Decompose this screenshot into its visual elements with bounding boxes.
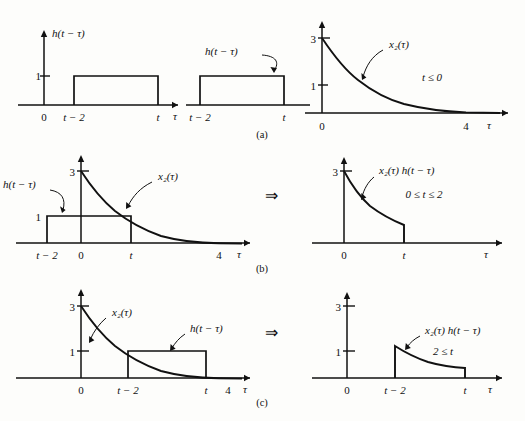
pulse-leader-line bbox=[172, 334, 185, 348]
pulse-leader-arrowhead bbox=[170, 344, 176, 351]
truncated-exponential bbox=[344, 171, 404, 243]
x-axis-arrowhead bbox=[496, 375, 502, 381]
x-tick-label-t: t bbox=[129, 249, 133, 261]
curve-leader-line bbox=[362, 177, 374, 197]
row-caption-c: (c) bbox=[256, 397, 268, 409]
x-tick-label-4: 4 bbox=[216, 249, 222, 261]
y-axis-label: h(t − τ) bbox=[52, 27, 85, 40]
x-axis-label-tau: τ bbox=[237, 248, 242, 260]
y-tick-label-3: 3 bbox=[311, 33, 317, 45]
rect-pulse bbox=[47, 216, 131, 243]
x-axis-label-tau: τ bbox=[484, 248, 489, 260]
figure-svg: h(t − τ) 1 0 t − 2 t τ h(t − τ) t − 2 t bbox=[0, 0, 525, 421]
x-axis-arrowhead bbox=[244, 375, 250, 381]
condition-annotation: t ≤ 0 bbox=[422, 71, 443, 83]
x-tick-label-0: 0 bbox=[78, 384, 84, 396]
x-axis-label-tau: τ bbox=[173, 110, 178, 122]
y-axis-arrowhead bbox=[319, 21, 325, 28]
x-axis-label-tau: τ bbox=[488, 383, 493, 395]
pulse-leader-arrowhead bbox=[60, 206, 66, 213]
implies-symbol-b: ⇒ bbox=[265, 187, 278, 204]
x-tick-label-0: 0 bbox=[344, 384, 350, 396]
y-axis-arrowhead bbox=[78, 155, 84, 162]
y-tick-label-3: 3 bbox=[333, 166, 339, 178]
x-tick-label-4: 4 bbox=[463, 120, 469, 132]
panel-a-left: h(t − τ) 1 0 t − 2 t τ bbox=[18, 27, 178, 123]
leader-line bbox=[363, 50, 383, 77]
rect-pulse bbox=[74, 76, 158, 105]
rect-pulse bbox=[128, 351, 206, 378]
x-tick-label-t: t bbox=[463, 384, 467, 396]
x-tick-label-tminus2: t − 2 bbox=[63, 111, 85, 123]
rect-pulse bbox=[200, 76, 284, 105]
implies-symbol-c: ⇒ bbox=[265, 324, 278, 341]
row-a: h(t − τ) 1 0 t − 2 t τ h(t − τ) t − 2 t bbox=[18, 21, 508, 141]
panel-c-right: x₂(τ) h(t − τ) 3 1 0 t − 2 t τ 2 ≤ t bbox=[312, 292, 502, 396]
x-tick-label-t: t bbox=[282, 111, 286, 123]
curve-leader-line bbox=[128, 182, 152, 206]
y-tick-label-1: 1 bbox=[311, 80, 317, 92]
curve-label: x₂(τ) bbox=[111, 306, 132, 319]
x-tick-label-0: 0 bbox=[78, 249, 84, 261]
curve-label: x₂(τ) bbox=[157, 170, 178, 183]
pulse-label: h(t − τ) bbox=[205, 45, 238, 58]
panel-c-left: x₂(τ) h(t − τ) 3 1 0 t − 2 t 4 τ bbox=[16, 289, 250, 396]
curve-label: x₂(τ) h(t − τ) bbox=[378, 164, 435, 177]
y-tick-label-1: 1 bbox=[36, 211, 42, 223]
y-tick-label-3: 3 bbox=[336, 301, 342, 313]
y-tick-label-1: 1 bbox=[336, 346, 342, 358]
x-axis-label-tau: τ bbox=[243, 383, 248, 395]
row-b: h(t − τ) x₂(τ) 3 1 t − 2 0 t 4 τ ⇒ bbox=[3, 155, 502, 275]
panel-a-middle: h(t − τ) t − 2 t bbox=[186, 45, 310, 123]
exponential-curve bbox=[322, 38, 500, 113]
x-tick-label-t: t bbox=[402, 249, 406, 261]
y-axis-arrowhead bbox=[78, 289, 84, 296]
x-tick-label-tminus2: t − 2 bbox=[189, 111, 211, 123]
condition-annotation: 2 ≤ t bbox=[433, 345, 454, 357]
curve-label: x₂(τ) h(t − τ) bbox=[424, 324, 481, 337]
condition-annotation: 0 ≤ t ≤ 2 bbox=[405, 188, 443, 200]
curve-leader-arrowhead bbox=[126, 202, 131, 209]
x-axis-label-tau: τ bbox=[487, 119, 492, 131]
row-c: x₂(τ) h(t − τ) 3 1 0 t − 2 t 4 τ ⇒ bbox=[16, 289, 502, 409]
windowed-exponential bbox=[395, 346, 465, 378]
pulse-label: h(t − τ) bbox=[190, 322, 223, 335]
convolution-figure: h(t − τ) 1 0 t − 2 t τ h(t − τ) t − 2 t bbox=[0, 0, 525, 421]
x-axis-arrowhead bbox=[172, 102, 178, 108]
row-caption-b: (b) bbox=[256, 263, 269, 275]
panel-b-left: h(t − τ) x₂(τ) 3 1 t − 2 0 t 4 τ bbox=[3, 155, 250, 261]
x-tick-label-tminus2: t − 2 bbox=[36, 249, 58, 261]
y-tick-label-3: 3 bbox=[70, 166, 76, 178]
exponential-curve bbox=[81, 306, 242, 379]
panel-b-right: x₂(τ) h(t − τ) 3 0 t τ 0 ≤ t ≤ 2 bbox=[312, 157, 502, 261]
x-tick-label-t: t bbox=[156, 111, 160, 123]
x-tick-label-tminus2: t − 2 bbox=[384, 384, 406, 396]
y-axis-arrowhead bbox=[344, 292, 350, 299]
panel-a-right: x₂(τ) 3 1 0 4 τ t ≤ 0 bbox=[305, 21, 508, 132]
y-axis-arrowhead bbox=[41, 30, 47, 37]
x-tick-label-t: t bbox=[204, 384, 208, 396]
row-caption-a: (a) bbox=[256, 129, 268, 141]
x-tick-label-4: 4 bbox=[225, 384, 231, 396]
x-tick-label-0: 0 bbox=[341, 249, 347, 261]
pulse-label: h(t − τ) bbox=[3, 178, 36, 191]
x-axis-arrowhead bbox=[244, 240, 250, 246]
y-tick-label-1: 1 bbox=[70, 346, 76, 358]
y-tick-label-1: 1 bbox=[36, 70, 42, 82]
y-tick-label-3: 3 bbox=[70, 301, 76, 313]
x-tick-label-tminus2: t − 2 bbox=[117, 384, 139, 396]
curve-label: x₂(τ) bbox=[388, 38, 409, 51]
y-axis-arrowhead bbox=[341, 157, 347, 164]
pulse-leader-line bbox=[50, 190, 64, 210]
x-tick-label-0: 0 bbox=[319, 120, 325, 132]
x-tick-label-0: 0 bbox=[41, 111, 47, 123]
curve-leader-line bbox=[407, 336, 420, 347]
